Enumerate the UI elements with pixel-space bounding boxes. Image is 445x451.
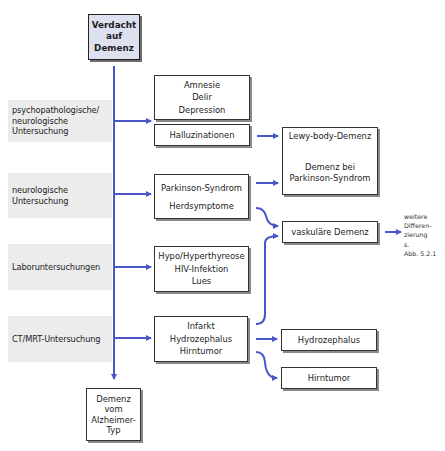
title-line: Verdacht [92, 20, 137, 32]
diagnosis-line: Lewy-body-Demenz [289, 131, 372, 142]
diagnosis-line: vaskuläre Demenz [291, 226, 369, 239]
note-line: weitere [404, 213, 427, 220]
finding-line: Halluzinationen [169, 129, 234, 142]
diagnosis-line: Parkinson-Syndrom [290, 173, 371, 184]
finding-box-neuro: Parkinson-Syndrom Herdsymptome [154, 174, 249, 219]
diagnosis-line: Demenz bei [305, 162, 355, 173]
finding-box-labor: Hypo/Hyperthyreose HIV-Infektion Lues [154, 246, 249, 292]
diagnosis-box-vascular: vaskuläre Demenz [282, 221, 378, 243]
start-node-suspected-dementia: Verdacht auf Demenz [88, 14, 140, 60]
note-line: Differen- [404, 222, 431, 229]
diagnosis-line: Hirntumor [308, 372, 351, 385]
diagnosis-line: Typ [106, 425, 120, 436]
diagnosis-line: Demenz [96, 394, 131, 405]
diagnosis-box-hydrocephalus: Hydrozephalus [281, 329, 377, 351]
connector-arrows [0, 0, 445, 451]
note-line: zierung [404, 231, 428, 238]
finding-line: Delir [192, 91, 212, 104]
diagnosis-line: Alzheimer- [91, 415, 135, 426]
diagnosis-line: vom [104, 404, 122, 415]
note-line: Abb. 5.2.1 [404, 250, 436, 257]
finding-box-psych: Amnesie Delir Depression [154, 75, 250, 120]
diagnosis-line: Hydrozephalus [298, 334, 360, 347]
diagnosis-box-lewy-parkinson: Lewy-body-Demenz Demenz bei Parkinson-Sy… [282, 127, 378, 195]
diagnosis-box-alzheimer: Demenz vom Alzheimer- Typ [86, 388, 141, 441]
note-line: s. [404, 241, 409, 248]
title-line: Demenz [94, 43, 134, 55]
finding-line: Depression [179, 104, 226, 117]
finding-line: Amnesie [184, 79, 220, 92]
finding-line: Herdsymptome [169, 200, 234, 212]
title-line: auf [106, 31, 122, 43]
finding-box-hallucinations: Halluzinationen [154, 124, 250, 146]
finding-line: Hypo/Hyperthyreose [158, 250, 244, 263]
finding-line: Parkinson-Syndrom [161, 182, 242, 194]
diagnosis-box-tumor: Hirntumor [281, 367, 377, 389]
finding-line: HIV-Infektion [175, 263, 229, 276]
finding-line: Infarkt [187, 320, 214, 333]
finding-line: Lues [192, 275, 211, 288]
further-differentiation-note: weitere Differen- zierung s. Abb. 5.2.1 [404, 212, 436, 258]
finding-line: Hirntumor [180, 345, 223, 358]
finding-line: Hydrozephalus [170, 333, 232, 346]
finding-box-imaging: Infarkt Hydrozephalus Hirntumor [154, 316, 248, 362]
